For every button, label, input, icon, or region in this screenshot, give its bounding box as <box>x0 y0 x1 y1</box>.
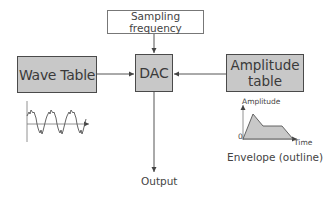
output-label: Output <box>141 175 177 187</box>
waveform-graph <box>27 101 89 142</box>
dac-label: DAC <box>139 65 169 81</box>
wave-table-box: Wave Table <box>17 56 97 93</box>
envelope-x-axis-label: Time <box>294 138 312 147</box>
amplitude-table-label-line2: table <box>248 73 282 89</box>
amplitude-table-box: Amplitude table <box>226 54 304 92</box>
sampling-frequency-box: Sampling frequency <box>107 10 204 34</box>
sampling-frequency-label: Sampling frequency <box>108 10 203 34</box>
envelope-graph <box>243 105 297 140</box>
amplitude-table-label-line1: Amplitude <box>230 57 299 73</box>
envelope-y-axis-label: Amplitude <box>242 97 280 106</box>
envelope-caption: Envelope (outline) <box>227 151 323 163</box>
envelope-origin-label: 0 <box>238 132 243 141</box>
dac-box: DAC <box>135 54 173 92</box>
wave-table-label: Wave Table <box>19 67 95 83</box>
